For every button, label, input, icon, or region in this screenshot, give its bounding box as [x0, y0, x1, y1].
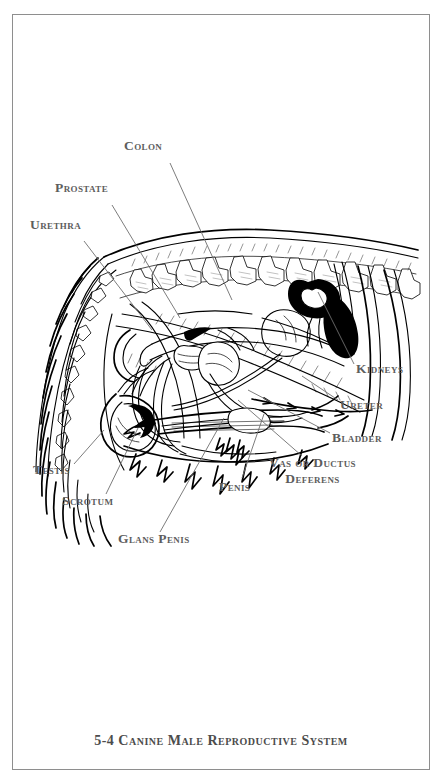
label-colon[interactable]: Colon — [124, 138, 162, 154]
label-ureter[interactable]: Ureter — [340, 397, 383, 413]
label-vas-deferens[interactable]: Vas or Ductus Deferens — [269, 455, 356, 487]
label-penis[interactable]: Penis — [219, 479, 250, 495]
label-kidneys[interactable]: Kidneys — [356, 361, 403, 377]
label-prostate[interactable]: Prostate — [55, 180, 108, 196]
testis — [118, 368, 154, 394]
label-bladder[interactable]: Bladder — [332, 430, 382, 446]
label-scrotum[interactable]: Scrotum — [62, 493, 113, 509]
kidneys — [262, 279, 359, 358]
label-testis[interactable]: Testis — [33, 462, 70, 478]
figure-plate: .ln { fill:none; stroke:#000; stroke-wid… — [0, 0, 442, 783]
label-glans-penis[interactable]: Glans Penis — [118, 531, 190, 547]
bladder — [198, 342, 239, 385]
figure-caption: 5-4 Canine Male Reproductive System — [12, 733, 430, 749]
label-urethra[interactable]: Urethra — [30, 217, 81, 233]
ventral-hatching — [128, 354, 352, 404]
